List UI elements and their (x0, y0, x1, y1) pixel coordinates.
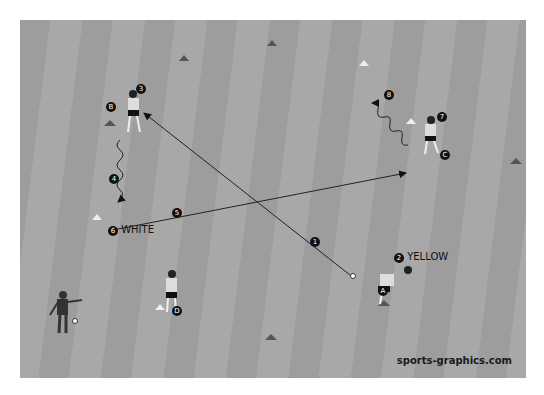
step-marker-3: 3 (136, 82, 146, 94)
player-3 (128, 90, 140, 132)
watermark: sports-graphics.com (397, 355, 512, 366)
step-marker-5: 5 (172, 206, 182, 218)
step-marker-7: 7 (437, 110, 447, 122)
pass-arrow-5 (113, 173, 406, 230)
cone-icon (179, 55, 189, 61)
step-marker-4: 4 (109, 172, 119, 184)
team-label-yellow: YELLOW (407, 251, 448, 262)
cone-icon (104, 120, 116, 126)
cone-white-icon (406, 118, 416, 124)
cone-icon (267, 40, 277, 46)
station-marker-b: B (106, 100, 116, 112)
ball-icon (73, 319, 78, 324)
cone-white-icon (92, 214, 102, 220)
pass-arrow-1 (144, 113, 350, 275)
ball-icon (351, 274, 356, 279)
team-label-white: WHITE (121, 224, 154, 235)
step-marker-2-yellow: 2 YELLOW (394, 251, 448, 263)
station-marker-a: A (378, 284, 388, 296)
station-marker-c: C (440, 148, 450, 160)
step-marker-8: 8 (384, 88, 394, 100)
cone-white-icon (359, 60, 369, 66)
cone-white-icon (155, 304, 165, 310)
dribble-arrow-8 (372, 103, 408, 145)
cone-icon (510, 158, 522, 164)
dribble-arrow-4 (117, 140, 123, 202)
cone-icon (265, 334, 277, 340)
station-marker-d: D (172, 304, 182, 316)
step-marker-6-white: 6 WHITE (108, 224, 154, 236)
coach-icon (50, 291, 82, 333)
drill-diagram (20, 20, 526, 378)
soccer-field: 3 B 4 6 WHITE 5 1 2 YELLOW A 7 8 C D spo… (20, 20, 526, 378)
step-marker-1: 1 (310, 235, 320, 247)
